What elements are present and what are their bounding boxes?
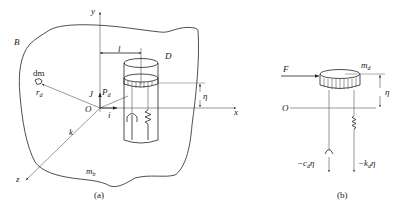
y-axis-label: y [90, 6, 95, 16]
figure-b: F md O η −cdη −kdη (b) [281, 60, 390, 200]
unit-vector-i-label: i [108, 110, 111, 120]
x-axis-label: x [233, 107, 238, 117]
body-outline [19, 25, 198, 187]
origin-label-b: O [282, 103, 289, 113]
caption-b: (b) [337, 190, 348, 200]
mass-element-icon [35, 79, 42, 85]
damper-icon [325, 150, 333, 155]
body-mass-label: mb [86, 166, 96, 177]
damper-force-label: −cdη [297, 158, 315, 169]
distance-label: l [118, 44, 121, 54]
eta-label-b: η [385, 87, 390, 97]
eta-label-a: η [203, 91, 208, 101]
body-label: B [14, 37, 20, 47]
damper-icon [127, 114, 137, 141]
z-axis-label: z [15, 174, 20, 184]
absorber-label: D [164, 51, 172, 61]
figure-a: B y x z O i J k l D Pd dm rd η mb (a) [14, 6, 238, 200]
force-label: F [282, 64, 289, 74]
caption-a: (a) [94, 190, 104, 200]
mass-element-label: dm [33, 68, 45, 78]
vibration-absorber-diagram: B y x z O i J k l D Pd dm rd η mb (a) [0, 0, 400, 209]
unit-vector-j-label: J [89, 89, 94, 99]
origin-label: O [85, 104, 92, 114]
absorber-mass-disk [320, 70, 360, 90]
point-label: Pd [101, 87, 112, 98]
spring-force-label: −kdη [358, 158, 376, 169]
spring-icon [145, 110, 151, 140]
position-vector-label: rd [36, 87, 44, 98]
spring-icon [352, 116, 356, 129]
mass-label: md [361, 60, 372, 71]
unit-vector-k-label: k [69, 127, 74, 137]
